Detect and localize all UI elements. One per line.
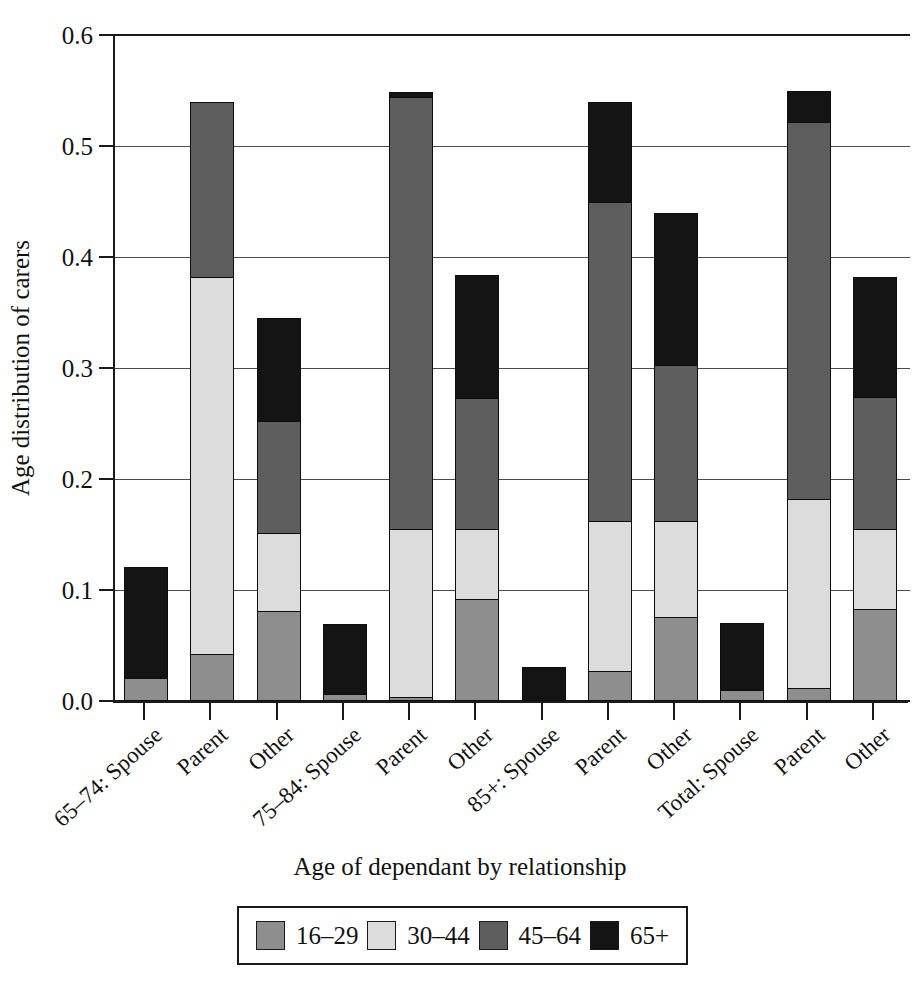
- legend-label: 65+: [630, 923, 669, 948]
- bar-segment[interactable]: [787, 499, 831, 688]
- bar-segment[interactable]: [588, 671, 632, 701]
- y-axis-tick-label: 0.2: [62, 467, 93, 492]
- legend-label: 16–29: [296, 923, 359, 948]
- bar-stack[interactable]: [853, 277, 897, 701]
- bar-segment[interactable]: [257, 611, 301, 701]
- bar-segment[interactable]: [522, 667, 566, 701]
- bar-stack[interactable]: [654, 213, 698, 701]
- bar-segment[interactable]: [720, 690, 764, 701]
- y-axis-title: Age distribution of carers: [6, 35, 36, 701]
- legend-swatch: [256, 921, 285, 950]
- stacked-bar-chart-figure: Age distribution of carers 0.00.10.20.30…: [0, 0, 920, 995]
- x-axis-tick-mark: [872, 703, 874, 720]
- legend-swatch: [367, 921, 396, 950]
- bar-segment[interactable]: [853, 277, 897, 397]
- x-axis-tick-mark: [209, 703, 211, 720]
- bar-segment[interactable]: [588, 521, 632, 671]
- x-axis-tick-mark: [408, 703, 410, 720]
- legend-swatch: [590, 921, 619, 950]
- x-axis-tick-label: Other: [442, 722, 498, 776]
- bar-segment[interactable]: [787, 122, 831, 499]
- bar-segment[interactable]: [323, 694, 367, 701]
- x-axis-tick-label: Parent: [371, 722, 431, 780]
- bar-stack[interactable]: [257, 318, 301, 701]
- y-axis-tick-mark: [99, 256, 115, 258]
- x-axis-tick-label: Parent: [173, 722, 233, 780]
- x-axis-tick-label: Parent: [769, 722, 829, 780]
- bar-segment[interactable]: [455, 398, 499, 529]
- bar-stack[interactable]: [389, 92, 433, 701]
- x-axis-tick-mark: [342, 703, 344, 720]
- x-axis-tick-mark: [607, 703, 609, 720]
- legend-item[interactable]: 16–29: [256, 921, 359, 950]
- x-axis-tick-mark: [673, 703, 675, 720]
- x-axis-tick-label: Other: [641, 722, 697, 776]
- bar-segment[interactable]: [455, 275, 499, 398]
- bar-stack[interactable]: [455, 275, 499, 701]
- y-axis-tick-mark: [99, 478, 115, 480]
- bar-stack[interactable]: [787, 91, 831, 702]
- bar-segment[interactable]: [853, 397, 897, 529]
- bar-segment[interactable]: [190, 277, 234, 654]
- bar-segment[interactable]: [720, 623, 764, 690]
- x-axis-tick-label: 65–74: Spouse: [49, 722, 167, 832]
- bar-stack[interactable]: [323, 624, 367, 701]
- y-axis-tick-label: 0.4: [62, 245, 93, 270]
- y-axis-tick-mark: [99, 145, 115, 147]
- bar-stack[interactable]: [522, 667, 566, 701]
- legend: 16–2930–4445–6465+: [237, 906, 688, 965]
- bar-segment[interactable]: [654, 365, 698, 522]
- x-axis-tick-label: Other: [840, 722, 896, 776]
- bar-stack[interactable]: [124, 567, 168, 701]
- x-axis-tick-mark: [806, 703, 808, 720]
- bar-segment[interactable]: [323, 624, 367, 694]
- legend-item[interactable]: 30–44: [367, 921, 470, 950]
- bar-segment[interactable]: [190, 654, 234, 701]
- legend-item[interactable]: 65+: [590, 921, 669, 950]
- x-axis-title: Age of dependant by relationship: [0, 852, 920, 881]
- bar-segment[interactable]: [654, 617, 698, 701]
- legend-swatch: [479, 921, 508, 950]
- bar-segment[interactable]: [455, 529, 499, 599]
- bar-stack[interactable]: [588, 102, 632, 701]
- bar-segment[interactable]: [787, 91, 831, 122]
- bar-segment[interactable]: [124, 567, 168, 678]
- y-axis-tick-label: 0.5: [62, 134, 93, 159]
- x-axis-line: [113, 701, 908, 703]
- x-axis-tick-mark: [276, 703, 278, 720]
- bar-segment[interactable]: [389, 97, 433, 529]
- bar-segment[interactable]: [455, 599, 499, 701]
- x-axis-tick-mark: [739, 703, 741, 720]
- gridline: [115, 34, 910, 36]
- bar-segment[interactable]: [654, 213, 698, 365]
- y-axis-tick-mark: [99, 34, 115, 36]
- x-axis-tick-mark: [143, 703, 145, 720]
- legend-label: 30–44: [407, 923, 470, 948]
- x-axis-tick-label: Other: [244, 722, 300, 776]
- bar-segment[interactable]: [257, 318, 301, 421]
- bar-segment[interactable]: [654, 521, 698, 616]
- bar-segment[interactable]: [257, 533, 301, 611]
- y-axis-tick-mark: [99, 367, 115, 369]
- bar-segment[interactable]: [787, 688, 831, 701]
- bar-segment[interactable]: [389, 529, 433, 697]
- bar-segment[interactable]: [124, 678, 168, 701]
- y-axis-tick-label: 0.1: [62, 578, 93, 603]
- figure-caption-clipped: [0, 0, 920, 14]
- bar-segment[interactable]: [257, 421, 301, 533]
- x-axis-tick-mark: [474, 703, 476, 720]
- plot-area: 0.00.10.20.30.40.50.6: [113, 35, 908, 701]
- bar-stack[interactable]: [190, 102, 234, 701]
- y-axis-tick-label: 0.3: [62, 356, 93, 381]
- bar-segment[interactable]: [853, 529, 897, 609]
- legend-item[interactable]: 45–64: [479, 921, 582, 950]
- y-axis-tick-mark: [99, 589, 115, 591]
- bar-segment[interactable]: [588, 202, 632, 522]
- bar-segment[interactable]: [853, 609, 897, 701]
- x-axis-tick-label: Parent: [570, 722, 630, 780]
- x-axis-tick-mark: [541, 703, 543, 720]
- bar-segment[interactable]: [588, 102, 632, 202]
- bar-segment[interactable]: [190, 102, 234, 277]
- bar-stack[interactable]: [720, 623, 764, 701]
- legend-label: 45–64: [519, 923, 582, 948]
